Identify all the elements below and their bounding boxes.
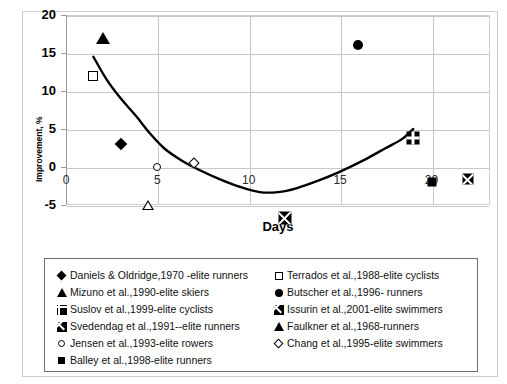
- legend-item[interactable]: Balley et al.,1998-elite runners: [54, 352, 269, 369]
- legend-label: Suslov et al.,1999-elite cyclists: [69, 304, 213, 315]
- legend-box: Daniels & Oldridge,1970 -elite runnersMi…: [44, 258, 478, 372]
- legend-item[interactable]: Daniels & Oldridge,1970 -elite runners: [54, 267, 269, 284]
- legend-label: Issurin et al.,2001-elite swimmers: [286, 304, 443, 315]
- legend-label: Chang et al.,1995-elite swimmers: [286, 338, 443, 349]
- legend-label: Daniels & Oldridge,1970 -elite runners: [69, 270, 248, 281]
- legend-marker-open-square: [271, 268, 286, 283]
- filled-square-marker: [58, 357, 66, 365]
- legend-label: Jensen et al.,1993-elite rowers: [69, 338, 213, 349]
- legend-marker-x-in-square: [54, 319, 69, 334]
- legend-marker-filled-circle: [271, 285, 286, 300]
- x-in-square-marker: [274, 305, 284, 315]
- data-point-open-square: [88, 71, 98, 81]
- legend-label: Mizuno et al.,1990-elite skiers: [69, 287, 209, 298]
- legend-label: Butscher et al.,1996- runners: [286, 287, 422, 298]
- data-point-filled-triangle: [96, 32, 110, 44]
- legend-label: Svedendag et al.,1991--elite runners: [69, 321, 240, 332]
- legend-marker-filled-triangle: [54, 285, 69, 300]
- legend-marker-open-diamond: [271, 336, 286, 351]
- x-in-square-marker: [57, 322, 67, 332]
- legend-item[interactable]: Chang et al.,1995-elite swimmers: [271, 335, 476, 352]
- data-point-filled-circle: [353, 40, 363, 50]
- open-triangle-marker: [274, 322, 284, 331]
- open-square-marker: [275, 272, 283, 280]
- trend-curve: [93, 57, 413, 193]
- figure-root: 20151050-5 05101520 Improvement, % Days …: [0, 0, 507, 384]
- data-point-filled-square: [427, 178, 436, 187]
- open-circle-marker: [58, 340, 65, 347]
- legend-item[interactable]: Butscher et al.,1996- runners: [271, 284, 476, 301]
- legend-label: Faulkner et al.,1968-runners: [286, 321, 419, 332]
- legend-marker-plus-in-square: [54, 302, 69, 317]
- data-point-open-circle: [153, 163, 161, 171]
- legend-column-left: Daniels & Oldridge,1970 -elite runnersMi…: [54, 267, 269, 369]
- data-point-plus-in-square: [407, 132, 420, 145]
- legend-marker-filled-square: [54, 353, 69, 368]
- data-point-x-in-square: [463, 174, 474, 185]
- data-point-x-in-square: [279, 212, 292, 225]
- filled-diamond-marker: [57, 271, 67, 281]
- legend-label: Terrados et al.,1988-elite cyclists: [286, 270, 439, 281]
- open-diamond-marker: [274, 339, 284, 349]
- legend-marker-open-circle: [54, 336, 69, 351]
- legend-marker-x-in-square: [271, 302, 286, 317]
- legend-item[interactable]: Issurin et al.,2001-elite swimmers: [271, 301, 476, 318]
- legend-column-right: Terrados et al.,1988-elite cyclistsButsc…: [271, 267, 476, 352]
- legend-label: Balley et al.,1998-elite runners: [69, 355, 212, 366]
- legend-marker-open-triangle: [271, 319, 286, 334]
- trend-curve-layer: [22, 11, 498, 242]
- filled-circle-marker: [275, 289, 283, 297]
- legend-item[interactable]: Faulkner et al.,1968-runners: [271, 318, 476, 335]
- legend-item[interactable]: Suslov et al.,1999-elite cyclists: [54, 301, 269, 318]
- plus-in-square-marker: [57, 305, 67, 315]
- filled-triangle-marker: [57, 288, 67, 297]
- legend-item[interactable]: Mizuno et al.,1990-elite skiers: [54, 284, 269, 301]
- legend-item[interactable]: Terrados et al.,1988-elite cyclists: [271, 267, 476, 284]
- legend-item[interactable]: Svedendag et al.,1991--elite runners: [54, 318, 269, 335]
- data-point-open-triangle: [142, 200, 154, 210]
- legend-marker-filled-diamond: [54, 268, 69, 283]
- legend-item[interactable]: Jensen et al.,1993-elite rowers: [54, 335, 269, 352]
- chart-area: 20151050-5 05101520 Improvement, % Days: [22, 11, 498, 242]
